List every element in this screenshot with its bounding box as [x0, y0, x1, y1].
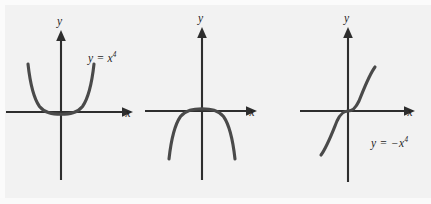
- x-axis-label: x: [125, 107, 132, 119]
- x-axis-label: x: [407, 106, 414, 118]
- equation-base: y = x: [88, 52, 113, 64]
- y-axis-arrowhead: [56, 30, 66, 41]
- graph-panel-cubic: x y y = x3: [287, 0, 431, 204]
- y-axis-label: y: [56, 15, 63, 28]
- y-axis-label: y: [343, 12, 350, 25]
- y-axis-arrowhead: [197, 27, 207, 38]
- graph-panel-neg-quartic: x y y = −x4: [143, 0, 287, 204]
- graph-panel-quartic: x y y = x4: [0, 0, 144, 204]
- y-axis-label: y: [197, 12, 204, 25]
- x-axis-label: x: [249, 106, 256, 118]
- figure-plate: x y y = x4 x y y = −x4: [0, 0, 431, 204]
- equation-exponent: 4: [113, 51, 117, 59]
- y-axis-arrowhead: [343, 27, 353, 38]
- equation-label-quartic: y = x4: [88, 52, 117, 64]
- plate-bottom-edge: [0, 198, 431, 204]
